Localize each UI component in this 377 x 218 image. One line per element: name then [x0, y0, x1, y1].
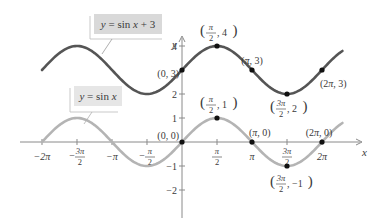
- y-tick-label: 1: [172, 113, 177, 124]
- svg-text:, 1: , 1: [217, 99, 227, 110]
- data-point: [319, 67, 324, 72]
- point-label: (3π2, −1): [270, 173, 313, 194]
- svg-text:(: (: [200, 94, 205, 111]
- svg-text:, −1: , −1: [287, 178, 303, 189]
- legend-callouts: y = sin x + 3y = sin x: [70, 14, 162, 124]
- point-label: (π, 3): [241, 55, 263, 67]
- tick-label: −π2: [139, 146, 155, 167]
- svg-text:−: −: [139, 150, 145, 161]
- data-point: [179, 139, 184, 144]
- data-point: [319, 139, 324, 144]
- svg-text:3π: 3π: [75, 146, 85, 156]
- svg-text:π: π: [209, 94, 214, 104]
- svg-text:(π, 0): (π, 0): [249, 127, 271, 139]
- svg-text:, 2: , 2: [287, 103, 297, 114]
- svg-text:(: (: [270, 98, 275, 115]
- data-point: [214, 43, 219, 48]
- svg-text:): ): [233, 22, 238, 39]
- data-point: [249, 67, 254, 72]
- data-point: [214, 115, 219, 120]
- x-axis-label: x: [361, 146, 367, 158]
- svg-text:3π: 3π: [276, 173, 286, 183]
- data-points: (0, 3)(π2, 4)(π, 3)(3π2, 2)(2π, 3)(0, 0)…: [157, 22, 346, 194]
- data-point: [284, 163, 289, 168]
- y-tick-label: −2: [166, 185, 177, 196]
- svg-text:): ): [308, 173, 313, 190]
- tick-label: π2: [212, 146, 222, 167]
- svg-text:2: 2: [209, 105, 213, 115]
- y-tick-label: 4: [172, 41, 177, 52]
- svg-text:(0, 3): (0, 3): [157, 68, 179, 80]
- data-point: [249, 139, 254, 144]
- svg-text:π: π: [215, 146, 220, 156]
- svg-text:π: π: [249, 151, 255, 162]
- svg-text:): ): [233, 94, 238, 111]
- svg-text:2: 2: [215, 157, 219, 167]
- svg-text:π: π: [148, 146, 153, 156]
- svg-text:(: (: [200, 22, 205, 39]
- svg-text:2: 2: [279, 184, 283, 194]
- y-tick-label: −1: [166, 161, 177, 172]
- data-point: [284, 91, 289, 96]
- svg-text:(2π, 0): (2π, 0): [306, 127, 333, 139]
- tick-label: −2π: [34, 151, 52, 162]
- svg-text:−: −: [69, 150, 75, 161]
- point-label: (3π2, 2): [270, 98, 308, 119]
- legend-label-sin-x-plus-3: y = sin x + 3: [100, 18, 156, 30]
- point-label: (2π, 3): [320, 78, 347, 90]
- svg-text:π: π: [209, 22, 214, 32]
- tick-label: π: [249, 151, 255, 162]
- svg-text:(2π, 3): (2π, 3): [320, 78, 347, 90]
- point-label: (2π, 0): [306, 127, 333, 139]
- tick-label: −3π2: [69, 146, 85, 167]
- svg-text:3π: 3π: [276, 98, 286, 108]
- legend-label-sin-x: y = sin x: [78, 90, 116, 102]
- svg-text:2: 2: [209, 33, 213, 43]
- svg-text:2π: 2π: [317, 151, 328, 162]
- y-tick-label: 2: [172, 89, 177, 100]
- tick-label: −π: [106, 151, 119, 162]
- svg-text:(: (: [270, 173, 275, 190]
- point-label: (π2, 1): [200, 94, 238, 115]
- point-label: (π2, 4): [200, 22, 238, 43]
- svg-text:, 4: , 4: [217, 27, 227, 38]
- data-point: [179, 67, 184, 72]
- point-label: (π, 0): [249, 127, 271, 139]
- svg-text:3π: 3π: [282, 146, 292, 156]
- svg-text:): ): [303, 98, 308, 115]
- point-label: (0, 3): [157, 68, 179, 80]
- svg-text:−π: −π: [106, 151, 119, 162]
- svg-text:−2π: −2π: [34, 151, 52, 162]
- tick-label: 2π: [317, 151, 328, 162]
- svg-text:2: 2: [279, 109, 283, 119]
- chart: xy−2π−3π2−π−π2π2π3π22π421−1−2 (0, 3)(π2,…: [0, 0, 377, 218]
- svg-text:(0, 0): (0, 0): [157, 130, 179, 142]
- callout-leader: [102, 39, 112, 54]
- svg-text:(π, 3): (π, 3): [241, 55, 263, 67]
- point-label: (0, 0): [157, 130, 179, 142]
- svg-text:2: 2: [78, 157, 82, 167]
